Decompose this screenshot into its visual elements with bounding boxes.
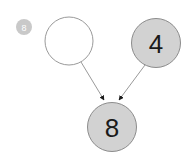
node-empty-circle[interactable] <box>45 17 93 65</box>
node-eight[interactable]: 8 <box>88 103 137 152</box>
edge-four-to-eight <box>119 65 145 100</box>
diagram-canvas: 4 8 8 <box>0 0 195 164</box>
edge-empty-to-eight <box>81 62 104 100</box>
node-four[interactable]: 4 <box>132 19 181 68</box>
count-badge-label: 8 <box>21 23 26 33</box>
count-badge[interactable]: 8 <box>16 19 32 35</box>
node-four-label: 4 <box>149 29 163 59</box>
edge-group <box>81 62 145 100</box>
node-eight-label: 8 <box>105 113 119 143</box>
graph-svg: 4 8 8 <box>0 0 195 164</box>
node-empty[interactable] <box>45 17 93 65</box>
